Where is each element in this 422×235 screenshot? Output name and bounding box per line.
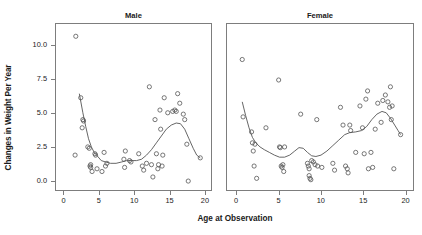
x-tick-label: 15 xyxy=(160,196,180,205)
x-tick-label: 20 xyxy=(195,196,215,205)
x-tick-label: 10 xyxy=(124,196,144,205)
data-point xyxy=(123,149,127,153)
data-point xyxy=(365,89,369,93)
data-point xyxy=(89,163,93,167)
data-point xyxy=(341,123,345,127)
data-point xyxy=(280,165,284,169)
data-point xyxy=(185,142,189,146)
scatter-plot-figure: Changes in Weight Per Year 0.02.55.07.51… xyxy=(0,0,422,235)
data-point xyxy=(183,118,187,122)
panel-title-female: Female xyxy=(226,11,414,20)
data-point xyxy=(349,128,353,132)
data-point xyxy=(369,150,373,154)
x-tick-label: 5 xyxy=(269,196,289,205)
data-point xyxy=(358,104,362,108)
data-point xyxy=(156,167,160,171)
data-point xyxy=(307,174,311,178)
data-point xyxy=(371,165,375,169)
panel-plot-area-male xyxy=(56,24,213,192)
data-point xyxy=(277,78,281,82)
data-point xyxy=(154,152,158,156)
data-point xyxy=(383,93,387,97)
panel-title-male: Male xyxy=(55,11,212,20)
data-point xyxy=(251,149,255,153)
data-point xyxy=(166,111,170,115)
data-point xyxy=(151,175,155,179)
x-axis-label: Age at Observation xyxy=(55,214,415,223)
data-point xyxy=(122,157,126,161)
x-tick-mark xyxy=(363,191,364,195)
x-tick-label: 0 xyxy=(53,196,73,205)
data-point xyxy=(376,101,380,105)
data-point xyxy=(354,150,358,154)
data-point xyxy=(80,126,84,130)
data-point xyxy=(264,126,268,130)
data-point xyxy=(161,153,165,157)
data-point xyxy=(315,118,319,122)
data-point xyxy=(399,133,403,137)
data-point xyxy=(306,164,310,168)
data-point xyxy=(159,127,163,131)
data-point xyxy=(144,161,148,165)
data-point xyxy=(137,152,141,156)
data-point xyxy=(147,85,151,89)
data-point xyxy=(74,34,78,38)
y-axis-label: Changes in Weight Per Year xyxy=(0,0,16,235)
data-point xyxy=(142,168,146,172)
data-point xyxy=(364,97,368,101)
data-point xyxy=(282,145,286,149)
x-tick-mark xyxy=(279,191,280,195)
x-tick-mark xyxy=(99,191,100,195)
panel-plot-area-female xyxy=(227,24,415,192)
x-tick-mark xyxy=(205,191,206,195)
data-point xyxy=(240,57,244,61)
data-point xyxy=(366,167,370,171)
data-point xyxy=(282,169,286,173)
data-point xyxy=(181,112,185,116)
data-point xyxy=(95,167,99,171)
x-tick-label: 10 xyxy=(311,196,331,205)
data-point xyxy=(309,178,313,182)
y-tick-label: 2.5 xyxy=(21,142,47,151)
y-tick-label: 10.0 xyxy=(21,40,47,49)
data-point xyxy=(299,112,303,116)
data-point xyxy=(332,168,336,172)
y-tick-label: 7.5 xyxy=(21,74,47,83)
data-point xyxy=(241,115,245,119)
data-point xyxy=(346,171,350,175)
data-point xyxy=(305,161,309,165)
data-point xyxy=(73,153,77,157)
data-point xyxy=(158,108,162,112)
data-point xyxy=(90,169,94,173)
data-point xyxy=(255,176,259,180)
x-tick-mark xyxy=(236,191,237,195)
x-tick-mark xyxy=(406,191,407,195)
x-tick-label: 0 xyxy=(226,196,246,205)
x-tick-label: 15 xyxy=(353,196,373,205)
data-point xyxy=(162,96,166,100)
smooth-curve xyxy=(79,94,200,164)
data-point xyxy=(100,169,104,173)
data-point xyxy=(176,92,180,96)
data-point xyxy=(362,152,366,156)
data-point xyxy=(320,165,324,169)
data-point xyxy=(178,101,182,105)
data-point xyxy=(153,118,157,122)
x-tick-mark xyxy=(321,191,322,195)
x-tick-label: 20 xyxy=(396,196,416,205)
y-tick-label: 0.0 xyxy=(21,176,47,185)
panel-male xyxy=(55,23,212,191)
data-point xyxy=(388,85,392,89)
data-point xyxy=(373,127,377,131)
data-point xyxy=(140,164,144,168)
data-point xyxy=(348,123,352,127)
data-point xyxy=(392,167,396,171)
data-point xyxy=(186,179,190,183)
data-point xyxy=(123,165,127,169)
x-tick-label: 5 xyxy=(89,196,109,205)
data-point xyxy=(252,164,256,168)
data-point xyxy=(331,161,335,165)
data-point xyxy=(379,120,383,124)
data-point xyxy=(381,98,385,102)
data-point xyxy=(386,100,390,104)
